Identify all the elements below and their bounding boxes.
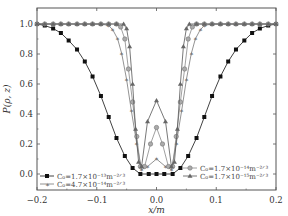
square-marker-icon [178,166,182,170]
xtick-label-4: 0.2 [269,195,283,205]
legend-left: C₀=1.7×10⁻¹³m⁻²ᐟ³ ✶ C₀=4.7×10⁻¹⁴m⁻²ᐟ³ [40,173,125,189]
ytick-label-3: 0.6 [19,79,33,89]
triangle-marker-icon [178,82,183,86]
triangle-marker-icon [154,98,159,102]
square-marker-icon [123,154,127,158]
xtick-label-2: 0.0 [150,195,164,205]
square-marker-icon [114,136,118,140]
square-marker-icon [195,136,199,140]
star-marker-icon: ✶ [124,76,129,83]
star-marker-icon: ✶ [115,35,120,42]
triangle-marker-icon [184,26,189,30]
square-marker-icon [83,60,87,64]
line-chart: ✶✶✶✶✶✶✶✶✶✶✶✶✶✶✶✶✶✶✶✶✶✶✶✶✶✶✶✶✶✶✶✶✶✶✶✶✶ −0… [0,0,288,216]
square-marker-icon [162,172,166,176]
circle-marker-icon [148,142,152,146]
square-marker-icon [258,27,262,31]
square-marker-icon [234,48,238,52]
circle-marker-icon [186,37,190,41]
triangle-marker-icon [163,119,168,123]
square-marker-icon [210,94,214,98]
circle-marker-icon [182,67,186,71]
triangle-marker-icon [145,119,150,123]
square-marker-icon [147,172,151,176]
x-axis-label: x/m [148,205,165,215]
circle-marker-icon [154,125,158,129]
xtick-label-3: 0.1 [209,195,223,205]
square-marker-icon [138,172,142,176]
triangle-marker-icon [124,26,129,30]
xtick-label-0: −0.2 [27,195,48,205]
legend-label-circle: C₀=1.7×10⁻¹⁴m⁻²ᐟ³ [200,165,268,173]
circle-marker-icon [188,166,192,170]
star-marker-icon: ✶ [189,50,194,57]
square-marker-icon [59,31,63,35]
square-marker-icon [186,154,190,158]
legend-label-triangle: C₀=1.7×10⁻¹⁵m⁻²ᐟ³ [200,173,268,181]
star-marker-icon: ✶ [154,155,159,162]
ytick-label-0: 0.0 [19,169,33,179]
ytick-label-4: 0.8 [19,49,33,59]
series-layer: ✶✶✶✶✶✶✶✶✶✶✶✶✶✶✶✶✶✶✶✶✶✶✶✶✶✶✶✶✶✶✶✶✶✶✶✶✶ [35,20,279,176]
square-marker-icon [218,75,222,79]
triangle-marker-icon [181,44,186,48]
square-marker-icon [107,115,111,119]
star-marker-icon: ✶ [110,26,115,33]
square-marker-icon [226,60,230,64]
legend-label-star: C₀=4.7×10⁻¹⁴m⁻²ᐟ³ [57,181,125,189]
square-marker-icon [202,115,206,119]
y-axis-label: P(ρ, z) [2,84,12,114]
star-marker-icon: ✶ [184,76,189,83]
circle-marker-icon [123,37,127,41]
square-marker-icon [45,174,49,178]
square-marker-icon [131,166,135,170]
star-marker-icon: ✶ [193,35,198,42]
triangle-marker-icon [130,82,135,86]
ytick-label-1: 0.2 [19,139,33,149]
circle-marker-icon [160,142,164,146]
star-marker-icon: ✶ [45,181,50,188]
ytick-label-5: 1.0 [19,19,33,29]
triangle-marker-icon [127,44,132,48]
legend-right: C₀=1.7×10⁻¹⁴m⁻²ᐟ³ C₀=1.7×10⁻¹⁵m⁻²ᐟ³ [183,165,268,181]
square-marker-icon [171,172,175,176]
ytick-label-2: 0.4 [19,109,33,119]
square-marker-icon [250,31,254,35]
square-marker-icon [155,172,159,176]
circle-marker-icon [126,67,130,71]
square-marker-icon [242,39,246,43]
square-marker-icon [91,75,95,79]
xtick-label-1: −0.1 [87,195,108,205]
square-marker-icon [99,94,103,98]
square-marker-icon [67,39,71,43]
square-marker-icon [51,27,55,31]
legend-label-square: C₀=1.7×10⁻¹³m⁻²ᐟ³ [57,173,125,181]
star-marker-icon: ✶ [119,50,124,57]
square-marker-icon [75,48,79,52]
